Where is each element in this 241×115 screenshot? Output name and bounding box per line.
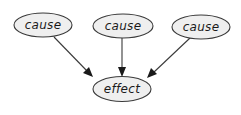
edges <box>54 37 190 78</box>
node-cause-2: cause <box>93 14 153 38</box>
node-label: cause <box>183 20 220 34</box>
arrowhead-icon <box>147 68 157 78</box>
cause-effect-diagram: cause cause cause effect <box>0 0 241 115</box>
edge-cause2-to-effect <box>118 38 126 77</box>
edge-cause1-to-effect <box>54 37 93 77</box>
arrowhead-icon <box>118 67 126 77</box>
edge-cause3-to-effect <box>147 38 190 78</box>
node-label: cause <box>25 18 62 32</box>
node-cause-3: cause <box>172 15 230 39</box>
node-label: cause <box>105 19 142 33</box>
node-effect: effect <box>93 77 151 102</box>
node-cause-1: cause <box>14 13 72 37</box>
node-label: effect <box>104 82 141 96</box>
